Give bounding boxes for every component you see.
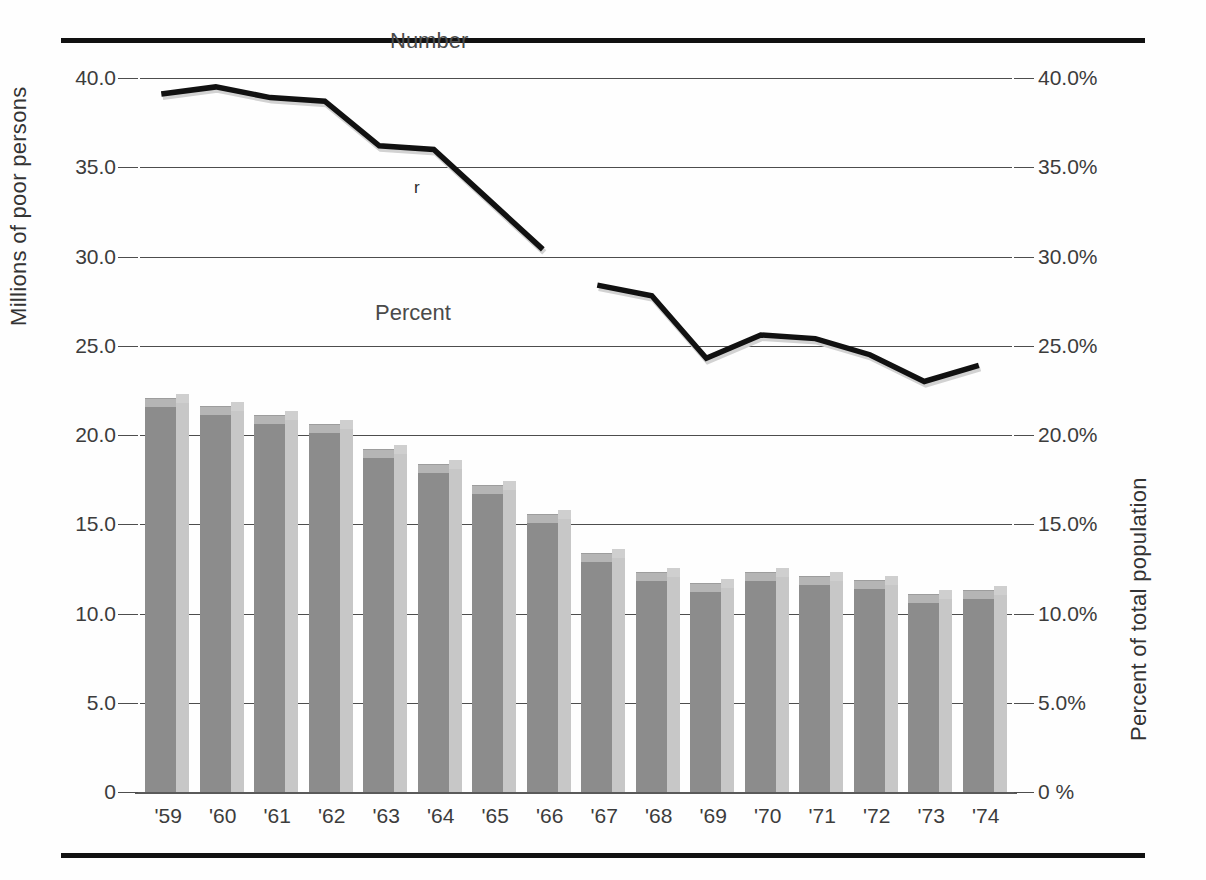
right-tick-dash (1014, 435, 1034, 436)
right-tick-dash (1014, 167, 1034, 168)
left-axis-tick-label: 25.0 (75, 334, 116, 358)
x-axis-tick-label: '72 (863, 804, 890, 828)
right-tick-dash (1014, 703, 1034, 704)
bottom-rule (61, 853, 1145, 858)
left-tick-dash (118, 257, 138, 258)
right-axis-tick-label: 0 % (1038, 780, 1074, 804)
number-line-post-revision (597, 285, 979, 381)
right-tick-dash (1014, 78, 1034, 79)
x-axis-tick-label: '60 (209, 804, 236, 828)
right-tick-dash (1014, 614, 1034, 615)
right-tick-dash (1014, 524, 1034, 525)
x-axis-tick-label: '73 (918, 804, 945, 828)
left-axis-tick-label: 40.0 (75, 66, 116, 90)
left-axis-tick-label: 10.0 (75, 602, 116, 626)
left-axis-tick-label: 5.0 (87, 691, 116, 715)
left-tick-dash (118, 167, 138, 168)
line-series-group (140, 78, 1012, 792)
number-line-pre-revision (161, 87, 543, 250)
x-axis-baseline (135, 792, 1017, 794)
right-axis-tick-label: 40.0% (1038, 66, 1098, 90)
x-axis-tick-label: '61 (264, 804, 291, 828)
right-axis-tick-label: 25.0% (1038, 334, 1098, 358)
x-axis-tick-label: '62 (318, 804, 345, 828)
right-axis-tick-label: 35.0% (1038, 155, 1098, 179)
x-axis-tick-label: '59 (155, 804, 182, 828)
left-tick-dash (118, 435, 138, 436)
x-axis-tick-label: '65 (482, 804, 509, 828)
left-axis-tick-label: 35.0 (75, 155, 116, 179)
x-axis-tick-label: '70 (754, 804, 781, 828)
left-tick-dash (118, 614, 138, 615)
poverty-chart-figure: Millions of poor persons Percent of tota… (0, 0, 1206, 880)
x-axis-tick-label: '63 (373, 804, 400, 828)
left-tick-dash (118, 792, 138, 793)
right-axis-tick-label: 5.0% (1038, 691, 1086, 715)
right-axis-tick-label: 20.0% (1038, 423, 1098, 447)
x-axis-tick-label: '69 (700, 804, 727, 828)
left-axis-tick-label: 30.0 (75, 245, 116, 269)
top-rule (61, 38, 1145, 43)
x-axis-tick-label: '68 (645, 804, 672, 828)
right-axis-tick-label: 15.0% (1038, 512, 1098, 536)
x-axis-tick-label: '74 (972, 804, 999, 828)
x-axis-tick-label: '66 (536, 804, 563, 828)
left-tick-dash (118, 346, 138, 347)
right-axis-tick-label: 30.0% (1038, 245, 1098, 269)
right-tick-dash (1014, 792, 1034, 793)
right-axis-title: Percent of total population (1126, 477, 1152, 741)
x-axis-tick-label: '71 (809, 804, 836, 828)
percent-series-annotation: Percent (375, 300, 451, 326)
number-series-annotation: Number (390, 28, 468, 54)
revision-break-marker: r (414, 178, 420, 198)
left-tick-dash (118, 524, 138, 525)
left-tick-dash (118, 703, 138, 704)
number-line-shadow-pre-revision (163, 90, 545, 253)
x-axis-tick-label: '67 (591, 804, 618, 828)
right-tick-dash (1014, 346, 1034, 347)
right-axis-tick-label: 10.0% (1038, 602, 1098, 626)
left-axis-tick-label: 20.0 (75, 423, 116, 447)
x-axis-tick-label: '64 (427, 804, 454, 828)
left-axis-tick-label: 15.0 (75, 512, 116, 536)
plot-area: 00 %5.05.0%10.010.0%15.015.0%20.020.0%25… (140, 78, 1012, 792)
right-tick-dash (1014, 257, 1034, 258)
left-axis-tick-label: 0 (104, 780, 116, 804)
left-axis-title: Millions of poor persons (6, 86, 32, 326)
left-tick-dash (118, 78, 138, 79)
